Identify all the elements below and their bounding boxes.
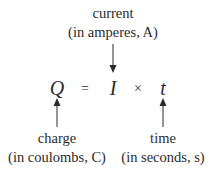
- arrow-up-icon: [160, 98, 167, 127]
- time-name: time: [150, 131, 176, 146]
- charge-unit: (in coulombs, C): [8, 150, 106, 165]
- arrows: [0, 0, 215, 169]
- time-unit: (in seconds, s): [121, 150, 204, 165]
- charge-name: charge: [38, 131, 76, 146]
- arrow-down-icon: [110, 44, 117, 73]
- arrow-up-icon: [54, 98, 61, 127]
